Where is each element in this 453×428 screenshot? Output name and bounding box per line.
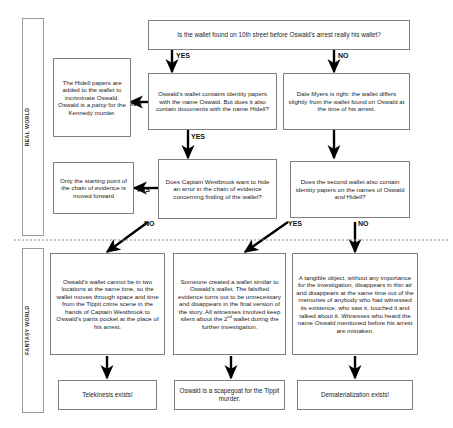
node-westbrook-question[interactable]: Does Captain Westbrook want to hide an e…: [158, 159, 277, 219]
edge-label-westbrook-yes: YES: [136, 186, 150, 193]
node-fantasy-two-locations-text: Oswald's wallet cannot be in two locatio…: [54, 278, 161, 331]
lane-label-real-world: REAL WORLD: [24, 95, 30, 159]
node-dale-myers-text: Dale Myers is right: the wallet differs …: [287, 90, 406, 113]
node-conclusion-scapegoat-text: Oswald is a scapegoat for the Tippit mur…: [178, 387, 281, 402]
edge-label-oswald-no: NO: [131, 100, 142, 107]
edge-label-westbrook-no: NO: [144, 220, 155, 227]
node-fantasy-created-wallet-text: Someone created a wallet similar to Oswa…: [177, 278, 282, 331]
node-second-wallet-question-text: Does the second wallet also contain iden…: [294, 178, 406, 201]
node-starting-point[interactable]: Only the starting point of the chain of …: [53, 162, 134, 214]
node-westbrook-question-text: Does Captain Westbrook want to hide an e…: [162, 178, 273, 201]
flowchart-canvas: REAL WORLD FANTASY WORLD Is the wallet f…: [0, 0, 453, 428]
node-second-wallet-question[interactable]: Does the second wallet also contain iden…: [290, 161, 410, 218]
node-hidell-papers[interactable]: The Hidell papers are added to the walle…: [53, 58, 131, 137]
node-conclusion-dematerialization-text: Dematerialization exists!: [301, 391, 409, 399]
edge-secondwallet-yes: [245, 222, 288, 252]
edge-westbrook-no: [107, 222, 148, 252]
edge-label-oswald-yes: YES: [191, 133, 205, 140]
node-fantasy-tangible-object[interactable]: A tangible object, without any importanc…: [292, 253, 418, 355]
node-root-question[interactable]: Is the wallet found on 10th street befor…: [148, 20, 410, 50]
lane-label-fantasy-world: FANTASY WORLD: [24, 292, 30, 368]
node-fantasy-tangible-object-text: A tangible object, without any importanc…: [296, 274, 414, 335]
node-oswald-wallet-question[interactable]: Oswald's wallet contains identity papers…: [148, 73, 277, 130]
node-conclusion-telekinesis[interactable]: Telekinesis exists!: [58, 380, 157, 410]
node-conclusion-dematerialization[interactable]: Dematerialization exists!: [297, 380, 413, 410]
node-starting-point-text: Only the starting point of the chain of …: [57, 177, 130, 200]
node-fantasy-two-locations[interactable]: Oswald's wallet cannot be in two locatio…: [50, 253, 165, 355]
edge-label-root-no: NO: [338, 52, 349, 59]
node-hidell-papers-text: The Hidell papers are added to the walle…: [57, 79, 127, 117]
node-conclusion-scapegoat[interactable]: Oswald is a scapegoat for the Tippit mur…: [174, 380, 285, 410]
node-conclusion-telekinesis-text: Telekinesis exists!: [62, 391, 153, 399]
node-dale-myers[interactable]: Dale Myers is right: the wallet differs …: [283, 73, 410, 130]
node-root-question-text: Is the wallet found on 10th street befor…: [152, 31, 406, 39]
node-fantasy-created-wallet[interactable]: Someone created a wallet similar to Oswa…: [173, 253, 286, 355]
edge-label-root-yes: YES: [176, 52, 190, 59]
edge-label-secondwallet-no: NO: [358, 220, 369, 227]
node-oswald-wallet-question-text: Oswald's wallet contains identity papers…: [152, 90, 273, 113]
edge-label-secondwallet-yes: YES: [288, 220, 302, 227]
